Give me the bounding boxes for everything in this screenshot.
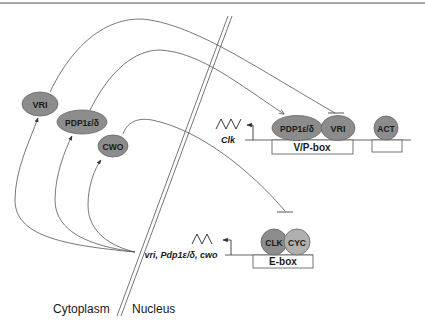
diagram-canvas: VRI PDP1ε/δ CWO V/P-box PDP1ε/δ VRI ACT … [0, 0, 425, 329]
vp-pdp1-label: PDP1ε/δ [280, 124, 314, 134]
vp-box-label: V/P-box [293, 142, 331, 153]
vp-box-complex: V/P-box PDP1ε/δ VRI ACT Clk [216, 116, 411, 155]
e-box-label: E-box [269, 256, 297, 267]
cytoplasm-protein-cwo: CWO [98, 135, 128, 157]
clk-protein-label: CLK [265, 238, 283, 248]
vp-vri-label: VRI [330, 124, 345, 134]
nucleus-label: Nucleus [132, 302, 175, 316]
cwo-inhibition-path [123, 119, 285, 211]
act-label: ACT [377, 124, 395, 134]
nuclear-membrane [117, 16, 232, 316]
cytoplasm-protein-pdp1: PDP1ε/δ [57, 110, 107, 134]
cwo-label: CWO [103, 142, 124, 152]
cyc-protein-label: CYC [288, 238, 306, 248]
pdp1-activation-path [90, 50, 284, 114]
gene-mrna-wave-icon [192, 234, 212, 244]
vri-inhibition-path [50, 19, 335, 113]
clk-mrna-wave-icon [216, 119, 241, 129]
vri-label: VRI [32, 100, 47, 110]
target-genes-label: vri, Pdp1ε/δ, cwo [145, 250, 218, 260]
clk-gene-label: Clk [221, 135, 236, 145]
e-box-complex: E-box CLK CYC vri, Pdp1ε/δ, cwo [145, 229, 313, 268]
pdp1-label: PDP1ε/δ [65, 118, 99, 128]
cytoplasm-protein-vri: VRI [22, 92, 58, 116]
cytoplasm-label: Cytoplasm [53, 302, 110, 316]
